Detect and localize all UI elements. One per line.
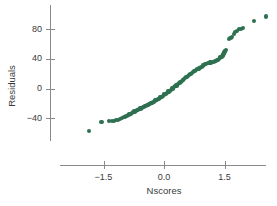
scatter-plot-figure: −4004080 Residuals −1.50.01.5 Nscores: [0, 0, 277, 206]
data-point: [224, 48, 228, 52]
scatter-points-layer: [0, 0, 277, 206]
data-point: [264, 14, 268, 18]
data-point: [241, 26, 245, 30]
data-point: [252, 19, 256, 23]
data-point: [87, 129, 91, 133]
data-point: [99, 120, 103, 124]
